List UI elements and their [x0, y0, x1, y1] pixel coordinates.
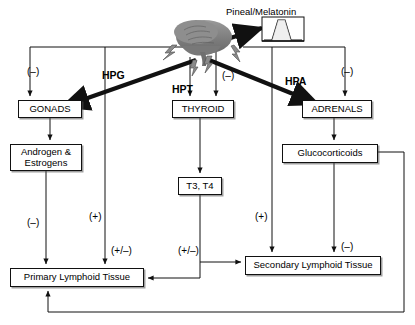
node-gonads[interactable]: GONADS: [18, 100, 82, 118]
diagram-canvas: GONADS Androgen & Estrogens THYROID T3, …: [0, 0, 415, 325]
brain-sagittal-icon: [174, 20, 232, 66]
node-primary-lymphoid-tissue[interactable]: Primary Lymphoid Tissue: [10, 268, 144, 287]
sign-brain-secondary: (+): [255, 211, 268, 222]
node-thyroid[interactable]: THYROID: [172, 100, 234, 118]
sign-adrenals-inhibit: (–): [341, 66, 353, 77]
melatonin-rhythm-plot-icon: [262, 17, 304, 41]
node-androgen-estrogens[interactable]: Androgen & Estrogens: [10, 144, 82, 171]
lightning-bolt-icon-right: [231, 45, 240, 62]
axis-label-hpt: HPT: [172, 83, 193, 95]
sign-brain-primary: (+): [89, 211, 102, 222]
pineal-melatonin-caption: Pineal/Melatonin: [226, 6, 296, 17]
sign-androgen-primary: (–): [27, 217, 39, 228]
node-glucocorticoids[interactable]: Glucocorticoids: [282, 144, 378, 163]
sign-primary-feedback: (+/–): [111, 245, 132, 256]
sign-gonads-inhibit: (–): [27, 66, 39, 77]
node-secondary-lymphoid-tissue[interactable]: Secondary Lymphoid Tissue: [245, 256, 381, 275]
sign-t3t4-lymphoid: (+/–): [178, 245, 199, 256]
sign-thyroid-inhibit: (–): [222, 70, 234, 81]
node-adrenals[interactable]: ADRENALS: [302, 100, 372, 118]
axis-label-hpa: HPA: [285, 75, 306, 87]
node-t3-t4[interactable]: T3, T4: [178, 177, 222, 195]
axis-label-hpg: HPG: [102, 69, 125, 81]
sign-gluco-secondary: (–): [341, 241, 353, 252]
